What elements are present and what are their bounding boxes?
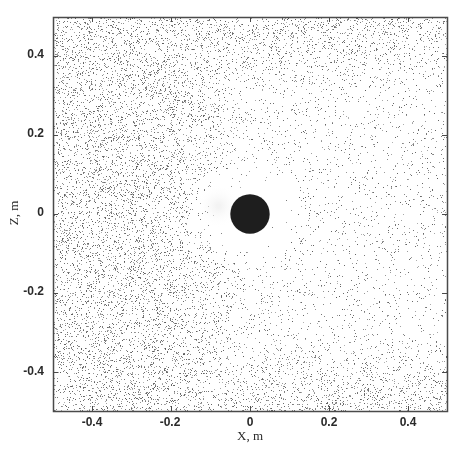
y-tick-label: -0.2 [4, 284, 44, 298]
y-axis-label: Z, m [6, 193, 22, 233]
y-tick-label: 0.2 [4, 126, 44, 140]
y-tick-label: -0.4 [4, 364, 44, 378]
scatter-plot-area [0, 0, 464, 463]
x-tick-label: 0.4 [388, 415, 428, 429]
x-tick-label: 0 [230, 415, 270, 429]
x-axis-label: X, m [220, 428, 280, 444]
x-tick-label: -0.4 [72, 415, 112, 429]
y-tick-label: 0.4 [4, 47, 44, 61]
scatter-figure: 0.4 0.2 0 -0.2 -0.4 -0.4 -0.2 0 0.2 0.4 … [0, 0, 464, 463]
x-tick-label: 0.2 [309, 415, 349, 429]
x-tick-label: -0.2 [150, 415, 190, 429]
